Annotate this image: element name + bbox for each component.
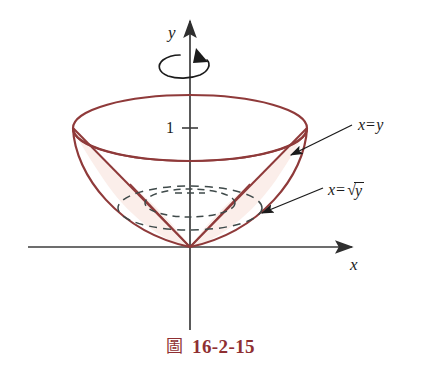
figure-caption: 圖16-2-15 — [0, 336, 421, 358]
axes-group — [28, 21, 352, 330]
figure-glyph: 圖 — [166, 336, 183, 356]
leader-line-paraboloid — [262, 188, 323, 213]
y-tick-label-1: 1 — [166, 120, 174, 136]
figure-number: 16-2-15 — [192, 336, 255, 358]
y-axis-label: y — [168, 24, 176, 41]
paraboloid-eq-operator: = — [335, 181, 346, 198]
square-root-icon: √y — [346, 181, 364, 198]
paraboloid-equation-label: x=√y — [328, 181, 364, 198]
cone-eq-operator: = — [365, 116, 376, 133]
cone-equation-label: x=y — [358, 117, 383, 133]
rotation-arrow-icon — [159, 48, 209, 78]
y-axis-label-text: y — [168, 23, 176, 42]
figure-container: y x 1 x=y x=√y 圖16-2-15 — [0, 0, 421, 374]
y-tick-value: 1 — [166, 119, 174, 136]
x-axis-label-text: x — [350, 255, 358, 274]
paraboloid-eq-radicand: y — [354, 182, 364, 199]
x-axis-label: x — [350, 256, 358, 273]
cone-eq-rhs: y — [376, 116, 383, 133]
